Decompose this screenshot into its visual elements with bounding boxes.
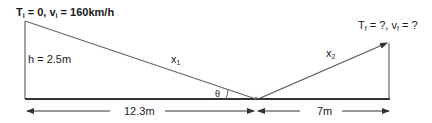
physics-diagram: Ti = 0, vi = 160km/h Tf = ?, vf = ? h = … (0, 0, 432, 123)
x1-label: x1 (171, 53, 181, 66)
vertex-dot (255, 97, 257, 99)
angle-arc (226, 89, 228, 99)
path-x2-arrow (258, 43, 387, 99)
distance-left-label: 12.3m (124, 105, 155, 117)
distance-right-label: 7m (317, 105, 332, 117)
initial-conditions-label: Ti = 0, vi = 160km/h (16, 6, 114, 19)
height-label: h = 2.5m (28, 53, 71, 65)
x2-label: x2 (326, 47, 336, 60)
theta-label: θ (215, 89, 220, 99)
final-conditions-label: Tf = ?, vf = ? (358, 19, 418, 32)
